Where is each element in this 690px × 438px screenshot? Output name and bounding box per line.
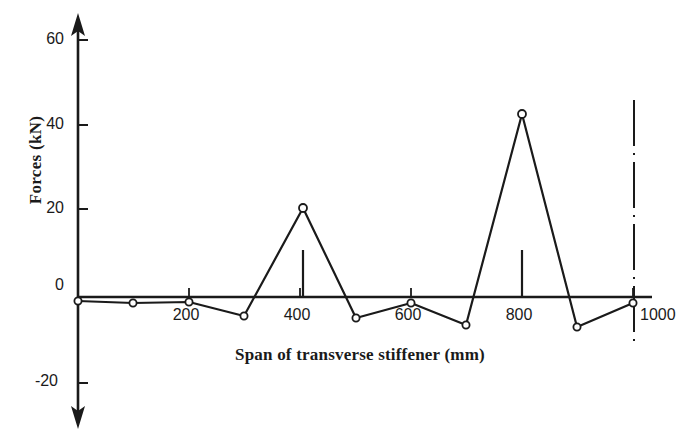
data-point-marker (240, 312, 247, 319)
stiffener-reaction-stubs (303, 250, 522, 297)
plot-canvas (0, 0, 690, 438)
y-axis (71, 13, 85, 429)
data-point-marker (462, 321, 469, 328)
data-point-marker (573, 323, 580, 330)
data-point-marker (352, 314, 359, 321)
data-point-marker (74, 297, 81, 304)
force-series-line (78, 114, 633, 327)
chart-figure: Forces (kN) Span of transverse stiffener… (0, 0, 690, 438)
data-point-marker (407, 299, 414, 306)
data-point-marker (129, 299, 136, 306)
data-point-marker (629, 299, 636, 306)
data-point-marker (299, 204, 307, 212)
data-point-marker (185, 298, 192, 305)
data-point-marker (518, 110, 526, 118)
y-tick-marks (78, 40, 88, 383)
